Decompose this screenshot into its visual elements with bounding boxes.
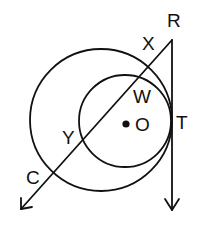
label-x: X [142, 34, 155, 53]
label-r: R [167, 11, 181, 30]
label-t: T [176, 113, 188, 132]
label-c: C [26, 168, 40, 187]
label-w: W [133, 87, 151, 106]
label-y: Y [62, 128, 75, 147]
center-dot-o [122, 120, 129, 127]
label-o: O [135, 115, 150, 134]
geometry-figure: R X W O T Y C [0, 0, 204, 228]
diagram-canvas [0, 0, 204, 228]
